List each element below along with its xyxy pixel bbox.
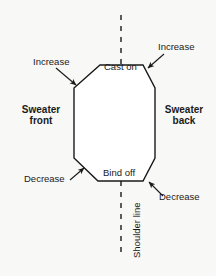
label-increase-right: Increase	[158, 42, 194, 53]
label-sweater-front: Sweater front	[12, 104, 70, 126]
decrease-left-arrow	[70, 168, 84, 180]
label-decrease-left: Decrease	[24, 174, 65, 185]
label-bind-off: Bind off	[103, 168, 135, 179]
label-cast-on: Cast on	[104, 62, 137, 73]
increase-right-arrow	[148, 54, 164, 68]
increase-left-arrow	[56, 68, 76, 85]
label-increase-left: Increase	[33, 57, 69, 68]
sweater-front-line-2: front	[30, 115, 53, 126]
octagon-body	[74, 65, 155, 181]
sweater-back-line-1: Sweater	[165, 104, 203, 115]
label-decrease-right: Decrease	[159, 192, 200, 203]
sweater-back-line-2: back	[173, 115, 196, 126]
label-shoulder-line: Shoulder line	[132, 203, 143, 258]
sweater-front-line-1: Sweater	[22, 104, 60, 115]
knitting-schematic-diagram: Increase Increase Cast on Bind off Decre…	[0, 0, 216, 276]
label-sweater-back: Sweater back	[157, 104, 211, 126]
